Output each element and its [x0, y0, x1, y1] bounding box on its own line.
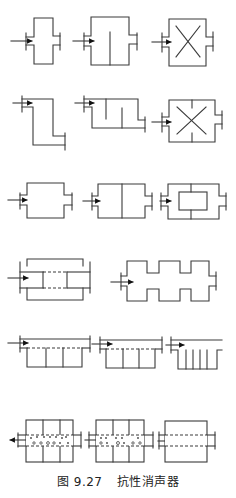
muffler-r4-c2 [111, 261, 216, 301]
muffler-r1-c3 [152, 19, 213, 66]
muffler-r3-c3 [160, 184, 226, 219]
muffler-r6-c3 [158, 421, 215, 462]
muffler-r6-c2 [85, 420, 153, 462]
muffler-r5-c2 [92, 337, 162, 368]
muffler-r2-c1 [13, 96, 65, 150]
muffler-r5-c1 [8, 336, 90, 367]
figure-number: 图 9.27 [57, 475, 103, 489]
muffler-r4-c1 [8, 259, 90, 300]
muffler-r1-c2 [73, 17, 137, 65]
muffler-r6-c1 [10, 420, 81, 462]
muffler-r2-c3 [152, 100, 222, 142]
figure-title: 抗性消声器 [117, 475, 180, 489]
muffler-r3-c1 [8, 183, 72, 218]
figure-caption: 图 9.27抗性消声器 [0, 472, 236, 489]
muffler-diagram-figure [0, 0, 236, 498]
muffler-r5-c3 [166, 337, 222, 369]
muffler-r3-c2 [83, 184, 152, 218]
muffler-r2-c2 [75, 96, 145, 132]
muffler-r1-c1 [11, 18, 60, 64]
